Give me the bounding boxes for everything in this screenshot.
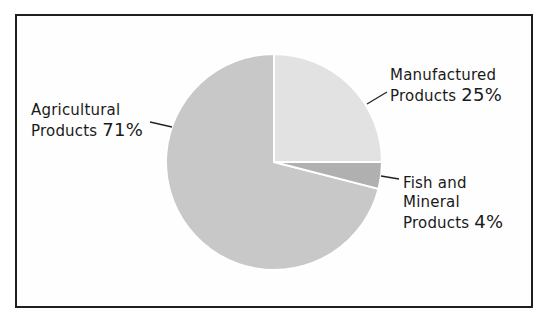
leader-line-fish-mineral bbox=[381, 176, 399, 179]
leader-line-agricultural bbox=[150, 122, 172, 127]
label-fish-mineral: Fish and Mineral Products 4% bbox=[403, 174, 503, 233]
label-agricultural-pct: 71% bbox=[102, 119, 143, 140]
label-fish-line3: Products bbox=[403, 214, 469, 232]
label-fish-line2: Mineral bbox=[403, 193, 503, 212]
label-agricultural-line2: Products bbox=[31, 122, 97, 140]
label-fish-pct: 4% bbox=[474, 211, 503, 232]
label-manufactured-pct: 25% bbox=[461, 84, 502, 105]
slice-manufactured bbox=[274, 54, 382, 162]
label-fish-line1: Fish and bbox=[403, 174, 503, 193]
label-manufactured: Manufactured Products 25% bbox=[390, 66, 502, 106]
leader-line-manufactured bbox=[367, 92, 387, 104]
label-agricultural: Agricultural Products 71% bbox=[31, 101, 143, 141]
label-manufactured-line2: Products bbox=[390, 87, 456, 105]
pie-chart bbox=[0, 0, 540, 311]
label-manufactured-line1: Manufactured bbox=[390, 66, 502, 85]
label-agricultural-line1: Agricultural bbox=[31, 101, 143, 120]
